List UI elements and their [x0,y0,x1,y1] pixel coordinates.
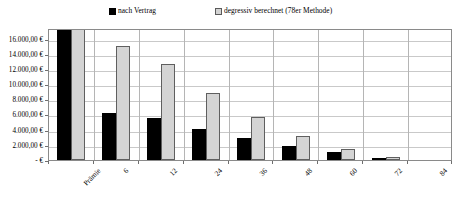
x-axis-tick-label: 72 [393,167,404,178]
bar-group [408,30,452,160]
y-axis-tick-label: 12.000,00 € [9,66,43,74]
bar-group [94,30,139,160]
x-axis-tick-mark [272,161,273,164]
bar[interactable] [147,118,161,160]
bar-group [363,30,408,160]
x-axis: Prämie612243648607284 [48,161,452,206]
x-axis-tick-mark [48,161,49,164]
bar[interactable] [192,129,206,160]
y-axis-tick-label: 10.000,00 € [9,81,43,89]
x-axis-tick-mark [451,161,452,164]
x-axis-tick-mark [138,161,139,164]
y-axis-tick-label: 8.000,00 € [12,96,43,104]
bar[interactable] [386,157,400,160]
x-axis-tick-mark [183,161,184,164]
x-axis-tick-label: 84 [438,167,449,178]
x-axis-tick-label: 24 [213,167,224,178]
bar-group [229,30,274,160]
bar[interactable] [116,46,130,160]
y-axis-tick-label: 16.000,00 € [9,36,43,44]
grey-square-swatch-icon [215,8,222,15]
legend-item-label: degressiv berechnet (78er Methode) [224,7,332,15]
y-axis-tick-label: 2.000,00 € [12,142,43,150]
x-axis-tick-label: 36 [258,167,269,178]
bar[interactable] [251,117,265,160]
bars-layer [49,30,451,160]
bar[interactable] [327,152,341,160]
y-axis-tick-label: 6.000,00 € [12,111,43,119]
legend-item-label: nach Vertrag [118,7,156,15]
x-axis-tick-mark [362,161,363,164]
bar-group [184,30,229,160]
legend-item-nach-vertrag[interactable]: nach Vertrag [109,7,156,15]
bar[interactable] [237,138,251,160]
bar[interactable] [341,149,355,160]
bar[interactable] [206,93,220,160]
y-axis-tick-label: - € [35,157,43,165]
y-axis: - €2.000,00 €4.000,00 €6.000,00 €8.000,0… [0,29,46,161]
x-axis-tick-mark [228,161,229,164]
y-axis-tick-label: 4.000,00 € [12,127,43,135]
x-axis-tick-label: 48 [303,167,314,178]
bar-group [139,30,184,160]
bar-group [318,30,363,160]
x-axis-tick-mark [93,161,94,164]
x-axis-tick-label: Prämie [83,167,103,187]
bar[interactable] [161,64,175,160]
bar[interactable] [372,158,386,160]
chart-legend: nach Vertrag degressiv berechnet (78er M… [0,7,461,21]
plot-area [48,29,452,161]
bar[interactable] [102,113,116,160]
y-axis-tick-label: 14.000,00 € [9,51,43,59]
bar[interactable] [282,146,296,160]
legend-item-degressiv-berechnet[interactable]: degressiv berechnet (78er Methode) [215,7,332,15]
x-axis-tick-label: 6 [122,167,130,175]
x-axis-tick-label: 12 [168,167,179,178]
bar-chart: nach Vertrag degressiv berechnet (78er M… [0,0,461,206]
bar-group [273,30,318,160]
bar-group [49,30,94,160]
x-axis-tick-mark [407,161,408,164]
bar[interactable] [57,29,71,160]
bar[interactable] [296,136,310,160]
black-square-swatch-icon [109,8,116,15]
x-axis-tick-label: 60 [348,167,359,178]
x-axis-tick-mark [317,161,318,164]
bar[interactable] [71,29,85,160]
